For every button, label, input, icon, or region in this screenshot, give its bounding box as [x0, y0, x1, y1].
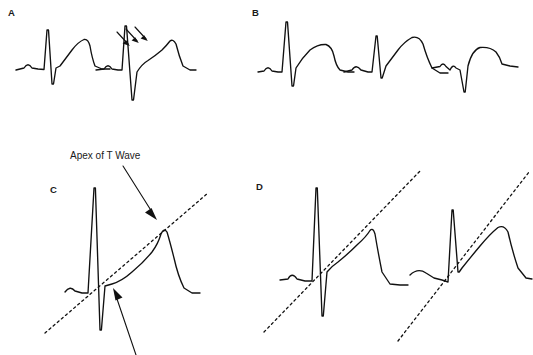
ecg-figure-root: A B [0, 0, 533, 355]
figure-background [0, 0, 533, 355]
panel-label-d: D [256, 181, 263, 192]
apex-of-t-wave-label: Apex of T Wave [70, 150, 141, 161]
panel-label-c: C [50, 184, 57, 195]
ecg-figure-canvas: A B [0, 0, 533, 355]
panel-label-b: B [252, 7, 259, 18]
panel-label-a: A [8, 7, 15, 18]
